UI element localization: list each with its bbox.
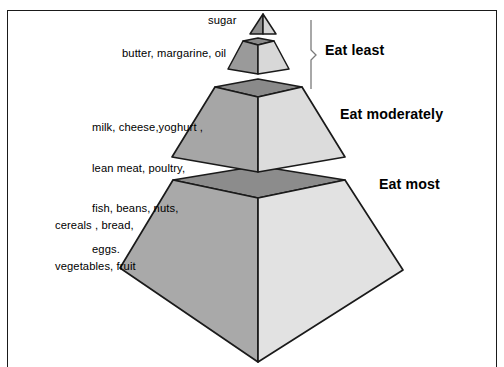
label-protein-line-1: milk, cheese,yoghurt , [92, 121, 203, 135]
tier-fats-right-face [258, 41, 289, 74]
label-carbs-line-2: vegetables, fruit [55, 260, 136, 274]
label-fats: butter, margarine, oil [122, 47, 226, 61]
label-carbs-line-1: cereals , bread, [55, 219, 136, 233]
food-pyramid-diagram: sugar butter, margarine, oil milk, chees… [0, 0, 504, 367]
tier-sugar-shape [250, 14, 276, 34]
tier-sugar-right-face [263, 14, 276, 34]
label-eat-least: Eat least [325, 44, 384, 58]
tier-fats-left-face [228, 41, 258, 74]
label-carbs: cereals , bread, vegetables, fruit [55, 192, 136, 300]
tier-fats-shape [228, 38, 289, 74]
label-sugar: sugar [208, 14, 237, 28]
label-eat-moderately: Eat moderately [340, 108, 443, 122]
label-eat-most: Eat most [379, 178, 440, 192]
tier-protein-right-face [258, 87, 345, 172]
tier-sugar-left-face [250, 14, 263, 34]
label-protein-line-2: lean meat, poultry, [92, 162, 203, 176]
eat-least-bracket [311, 20, 316, 89]
tier-carbs-right-face [258, 180, 403, 362]
